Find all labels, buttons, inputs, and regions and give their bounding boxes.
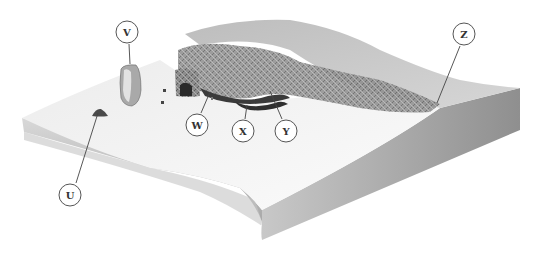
label-v-text: V bbox=[122, 27, 131, 38]
label-u: U bbox=[59, 184, 81, 206]
coastal-landform-diagram: U V W X Y Z bbox=[0, 0, 538, 266]
label-w-text: W bbox=[190, 120, 203, 131]
label-w: W bbox=[186, 114, 208, 136]
rock-fragment bbox=[211, 97, 213, 100]
label-x: X bbox=[232, 120, 254, 142]
rock-fragment bbox=[163, 89, 166, 92]
label-u-text: U bbox=[66, 190, 75, 201]
rock-fragment bbox=[161, 101, 164, 104]
leader-line-v bbox=[129, 44, 130, 64]
label-z: Z bbox=[453, 23, 475, 45]
cave-arch-dark bbox=[180, 83, 192, 96]
label-x-text: X bbox=[239, 126, 247, 137]
label-z-text: Z bbox=[460, 29, 467, 40]
label-v: V bbox=[116, 21, 138, 43]
label-y-text: Y bbox=[281, 126, 290, 137]
label-y: Y bbox=[275, 120, 297, 142]
